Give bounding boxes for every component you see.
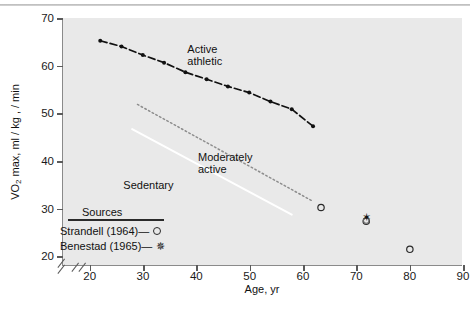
legend-entry-strandell-label: Strandell (1964) — [60, 225, 138, 237]
y-axis-title: VO2 max, ml / kg , / min — [9, 84, 23, 200]
legend-entry-strandell: Strandell (1964) — — [60, 224, 168, 239]
y-axis-title-suffix: max, ml / kg , / min — [9, 84, 21, 179]
scatter-point-open-circle — [318, 204, 324, 210]
series-point-active-athletic — [226, 84, 230, 88]
y-axis-tick — [57, 113, 63, 115]
series-label-moderately-active: Moderatelyactive — [198, 151, 252, 175]
series-point-active-athletic — [290, 107, 294, 111]
legend-marker-open-circle-icon — [149, 225, 165, 237]
y-axis-tick-label: 70 — [41, 12, 54, 24]
x-axis-tick-label: 90 — [457, 270, 470, 282]
x-axis-break-mark — [72, 262, 90, 276]
series-point-active-athletic — [247, 91, 251, 95]
series-point-active-athletic — [205, 77, 209, 81]
legend-entry-benestad: Benestad (1965) — ✵ — [60, 239, 168, 254]
x-axis-tick-label: 50 — [243, 270, 256, 282]
legend-underline — [68, 219, 164, 221]
y-axis-tick — [57, 66, 63, 68]
y-axis-tick-label: 20 — [41, 250, 54, 262]
series-point-active-athletic — [120, 45, 124, 49]
y-axis-tick — [57, 161, 63, 163]
y-axis-tick-label: 40 — [41, 155, 54, 167]
chart-figure: VO2 max, ml / kg , / min Age, yr ✶ 20304… — [0, 0, 470, 312]
series-label-active-athletic: Activeathletic — [187, 43, 222, 67]
legend-entry-benestad-dash: — — [141, 240, 152, 252]
y-axis-break-mark — [57, 262, 71, 276]
y-axis-title-prefix: VO — [9, 184, 21, 200]
series-point-active-athletic — [268, 100, 272, 104]
y-axis-tick-label: 30 — [41, 203, 54, 215]
scatter-point-filled-star: ✶ — [362, 211, 371, 223]
legend-entry-benestad-label: Benestad (1965) — [60, 240, 141, 252]
legend-title: Sources — [60, 206, 168, 218]
legend-entry-strandell-dash: — — [138, 225, 149, 237]
x-axis-tick-label: 60 — [297, 270, 310, 282]
series-label-sedentary: Sedentary — [123, 179, 173, 191]
y-axis-tick-label: 50 — [41, 107, 54, 119]
series-point-active-athletic — [98, 39, 102, 43]
series-point-active-athletic — [183, 70, 187, 74]
y-axis-tick — [57, 256, 63, 258]
x-axis-tick-label: 80 — [403, 270, 416, 282]
x-axis-tick-label: 30 — [137, 270, 150, 282]
scatter-point-open-circle — [407, 246, 413, 252]
y-axis-title-subscript: 2 — [14, 180, 23, 184]
y-axis-tick — [57, 18, 63, 20]
series-point-active-athletic — [162, 61, 166, 65]
series-point-active-athletic — [311, 124, 315, 128]
y-axis-tick-label: 60 — [41, 60, 54, 72]
legend-marker-star-icon: ✵ — [152, 240, 168, 252]
series-point-active-athletic — [141, 53, 145, 57]
x-axis-title: Age, yr — [245, 283, 280, 295]
legend-sources: Sources Strandell (1964) — Benestad (196… — [60, 206, 168, 254]
x-axis-tick-label: 70 — [350, 270, 363, 282]
x-axis-tick-label: 40 — [190, 270, 203, 282]
top-divider-rule — [0, 4, 470, 6]
